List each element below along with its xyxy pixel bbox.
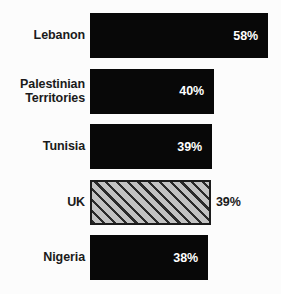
bar-hatched[interactable]: [90, 180, 211, 225]
bar-track: 38%: [90, 235, 281, 280]
bar-row: PalestinianTerritories40%: [0, 69, 281, 114]
category-label: Tunisia: [0, 139, 85, 154]
value-label: 40%: [179, 84, 204, 98]
bar-row: Nigeria38%: [0, 235, 281, 280]
category-label: Nigeria: [0, 250, 85, 265]
bar-track: 39%: [90, 124, 281, 169]
bar-track: 40%: [90, 69, 281, 114]
category-label-line: Lebanon: [0, 28, 85, 43]
category-label-line: UK: [0, 195, 85, 210]
bar-row: Lebanon58%: [0, 13, 281, 58]
category-label-line: Tunisia: [0, 139, 85, 154]
value-label: 58%: [233, 29, 258, 43]
bar-row: Tunisia39%: [0, 124, 281, 169]
value-label: 39%: [216, 195, 241, 209]
value-label: 38%: [173, 251, 198, 265]
category-label: Lebanon: [0, 28, 85, 43]
category-label-line: Palestinian: [0, 77, 85, 92]
category-label: PalestinianTerritories: [0, 77, 85, 106]
bar-row: UK39%: [0, 180, 281, 225]
bar-track: 58%: [90, 13, 281, 58]
bar-chart: Lebanon58%PalestinianTerritories40%Tunis…: [0, 0, 281, 294]
bar-track: 39%: [90, 180, 281, 225]
category-label-line: Nigeria: [0, 250, 85, 265]
category-label: UK: [0, 195, 85, 210]
value-label: 39%: [177, 140, 202, 154]
category-label-line: Territories: [0, 91, 85, 106]
